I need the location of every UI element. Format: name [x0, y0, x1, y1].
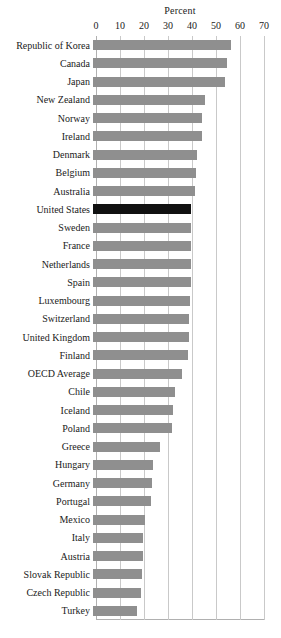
bar[interactable]	[93, 442, 160, 452]
bar-row[interactable]: Norway	[0, 108, 281, 128]
category-label: Canada	[0, 58, 93, 69]
bar-row[interactable]: Republic of Korea	[0, 35, 281, 55]
percent-bar-chart: Percent 010203040506070 Republic of Kore…	[0, 0, 281, 638]
bar-row[interactable]: Hungary	[0, 455, 281, 475]
bar-track	[93, 108, 261, 128]
bar-track	[93, 35, 261, 55]
bar[interactable]	[93, 369, 182, 379]
bar[interactable]	[93, 405, 173, 415]
category-label: Luxembourg	[0, 295, 93, 306]
bar[interactable]	[93, 387, 175, 397]
category-label: OECD Average	[0, 368, 93, 379]
bar[interactable]	[93, 606, 137, 616]
bar[interactable]	[93, 332, 189, 342]
bar[interactable]	[93, 460, 153, 470]
bar-row[interactable]: Japan	[0, 72, 281, 92]
bar[interactable]	[93, 40, 231, 50]
bar[interactable]	[93, 551, 143, 561]
x-tick-label: 60	[235, 20, 245, 31]
category-label: Netherlands	[0, 259, 93, 270]
bar-row[interactable]: Italy	[0, 528, 281, 548]
bar-row[interactable]: France	[0, 236, 281, 256]
bar-row[interactable]: Luxembourg	[0, 291, 281, 311]
bar-track	[93, 473, 261, 493]
bar[interactable]	[93, 168, 196, 178]
bar-row[interactable]: Sweden	[0, 218, 281, 238]
bar-track	[93, 72, 261, 92]
bar-track	[93, 272, 261, 292]
category-label: Portugal	[0, 496, 93, 507]
bar[interactable]	[93, 314, 189, 324]
category-label: Hungary	[0, 459, 93, 470]
category-label: Mexico	[0, 514, 93, 525]
bar[interactable]	[93, 478, 152, 488]
bar-row[interactable]: OECD Average	[0, 364, 281, 384]
category-label: Sweden	[0, 222, 93, 233]
bar[interactable]	[93, 113, 202, 123]
bar-row[interactable]: Belgium	[0, 163, 281, 183]
bar[interactable]	[93, 204, 191, 214]
category-label: France	[0, 240, 93, 251]
bar-row[interactable]: Germany	[0, 473, 281, 493]
bar-row[interactable]: Chile	[0, 382, 281, 402]
bar-track	[93, 382, 261, 402]
bar-row[interactable]: Turkey	[0, 601, 281, 621]
bar-row[interactable]: United Kingdom	[0, 327, 281, 347]
bar-rows: Republic of KoreaCanadaJapanNew ZealandN…	[0, 36, 281, 620]
bar-row[interactable]: Netherlands	[0, 254, 281, 274]
bar[interactable]	[93, 131, 202, 141]
bar[interactable]	[93, 58, 227, 68]
bar-row[interactable]: Spain	[0, 272, 281, 292]
bar[interactable]	[93, 423, 172, 433]
bar[interactable]	[93, 277, 191, 287]
category-label: Slovak Republic	[0, 569, 93, 580]
bar-track	[93, 291, 261, 311]
bar-row[interactable]: Canada	[0, 53, 281, 73]
bar-row[interactable]: Australia	[0, 181, 281, 201]
bar[interactable]	[93, 496, 151, 506]
bar-track	[93, 345, 261, 365]
bar-track	[93, 181, 261, 201]
bar-row[interactable]: Slovak Republic	[0, 564, 281, 584]
bar-row[interactable]: Greece	[0, 437, 281, 457]
bar-row[interactable]: Portugal	[0, 491, 281, 511]
bar-row[interactable]: Poland	[0, 418, 281, 438]
bar-row[interactable]: Iceland	[0, 400, 281, 420]
axis-title: Percent	[96, 5, 264, 16]
bar[interactable]	[93, 588, 141, 598]
bar[interactable]	[93, 150, 197, 160]
bar[interactable]	[93, 350, 188, 360]
bar-row[interactable]: Switzerland	[0, 309, 281, 329]
bar-track	[93, 455, 261, 475]
category-label: United Kingdom	[0, 332, 93, 343]
bar-row[interactable]: Czech Republic	[0, 583, 281, 603]
bar[interactable]	[93, 569, 142, 579]
bar-row[interactable]: Finland	[0, 345, 281, 365]
bar-track	[93, 583, 261, 603]
bar-row[interactable]: Austria	[0, 546, 281, 566]
bar-row[interactable]: Denmark	[0, 145, 281, 165]
bar[interactable]	[93, 95, 205, 105]
bar-track	[93, 327, 261, 347]
bar[interactable]	[93, 223, 191, 233]
bar-row[interactable]: United States	[0, 199, 281, 219]
bar[interactable]	[93, 533, 143, 543]
category-label: Ireland	[0, 131, 93, 142]
bar-track	[93, 418, 261, 438]
bar[interactable]	[93, 241, 191, 251]
bar-track	[93, 491, 261, 511]
x-tick-label: 20	[139, 20, 149, 31]
bar[interactable]	[93, 77, 225, 87]
bar[interactable]	[93, 186, 195, 196]
category-label: Italy	[0, 532, 93, 543]
bar-track	[93, 309, 261, 329]
category-label: Czech Republic	[0, 587, 93, 598]
bar-row[interactable]: Ireland	[0, 126, 281, 146]
bar-track	[93, 90, 261, 110]
bar-row[interactable]: New Zealand	[0, 90, 281, 110]
bar-row[interactable]: Mexico	[0, 510, 281, 530]
bar[interactable]	[93, 259, 191, 269]
category-label: Republic of Korea	[0, 40, 93, 51]
bar[interactable]	[93, 296, 190, 306]
bar[interactable]	[93, 515, 145, 525]
